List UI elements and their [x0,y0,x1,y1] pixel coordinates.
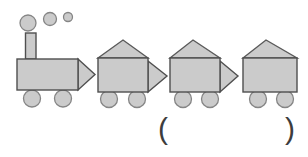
car2-wheel-front [175,91,192,108]
car2-wheel-rear [202,91,219,108]
car1-coupler-triangle [148,61,167,92]
car3-wheel-front [250,91,267,108]
car1-body [98,58,148,92]
car3-wheel-rear [277,91,294,108]
locomotive-chimney [26,33,37,59]
car3-body [243,58,297,92]
locomotive-wheel-rear [55,90,72,107]
locomotive-nose-triangle [78,59,95,90]
car2-roof-triangle [170,40,220,58]
worksheet-figure: ( ) [0,0,308,157]
car2-body [170,58,220,92]
smoke-puff-medium [44,13,57,26]
car2-coupler-triangle [220,61,238,92]
locomotive-wheel-front [24,90,41,107]
car1-wheel-front [101,91,118,108]
answer-paren-close: ) [285,114,295,144]
shape-train-figure [0,0,308,157]
locomotive-body [17,59,78,90]
smoke-puff-large [20,15,36,31]
car3-roof-triangle [243,40,297,58]
smoke-puff-small [64,13,73,22]
car1-wheel-rear [129,91,146,108]
answer-paren-open: ( [158,114,168,144]
car1-roof-triangle [98,40,148,58]
